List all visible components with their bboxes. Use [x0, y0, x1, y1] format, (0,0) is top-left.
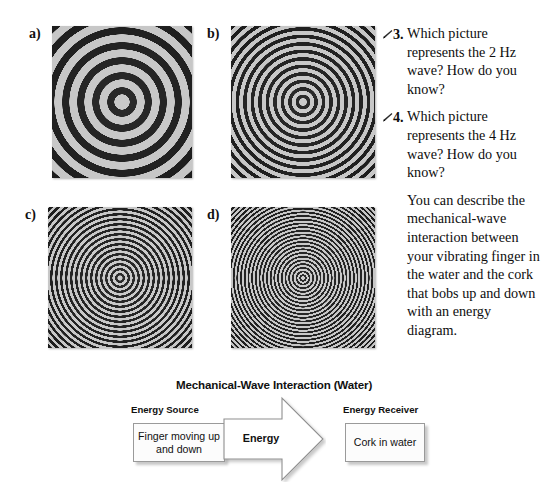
- question-marker-4: 4.: [382, 108, 406, 128]
- ripple-fade-overlay: [231, 207, 375, 348]
- energy-source-box: Finger moving up and down: [133, 423, 225, 462]
- panel-label-b: b): [207, 27, 219, 41]
- concentric-rings-d: [231, 207, 375, 348]
- diagram-title: Mechanical-Wave Interaction (Water): [0, 378, 548, 391]
- energy-source-caption: Energy Source: [131, 404, 199, 415]
- question-item-4: 4. Which picture represents the 4 Hz wav…: [382, 107, 544, 181]
- ripple-panel-d: [231, 207, 375, 348]
- ripple-fade-overlay: [48, 207, 192, 348]
- ripple-panel-b: [231, 26, 375, 178]
- energy-arrow: Energy: [222, 396, 326, 482]
- ripple-panel-a: [52, 26, 192, 178]
- question-number-4: 4.: [393, 109, 404, 125]
- panel-label-a: a): [29, 27, 41, 41]
- energy-receiver-caption: Energy Receiver: [343, 404, 418, 415]
- concentric-rings-b: [231, 26, 375, 178]
- question-column: 3. Which picture represents the 2 Hz wav…: [382, 24, 544, 340]
- question-item-3: 3. Which picture represents the 2 Hz wav…: [382, 24, 544, 98]
- question-marker-3: 3.: [382, 25, 406, 45]
- lesson-paragraph: You can describe the mechanical-wave int…: [382, 191, 544, 340]
- pencil-icon: [382, 109, 393, 128]
- question-number-3: 3.: [393, 26, 404, 42]
- concentric-rings-c: [48, 207, 192, 348]
- pencil-icon: [382, 26, 393, 45]
- question-text-4: Which picture represents the 4 Hz wave? …: [407, 108, 517, 180]
- concentric-rings-a: [52, 26, 192, 178]
- arrow-right-icon: [222, 396, 326, 482]
- energy-receiver-box: Cork in water: [345, 423, 425, 462]
- panel-label-d: d): [207, 208, 219, 222]
- ripple-panel-c: [48, 207, 192, 348]
- panel-label-c: c): [25, 208, 36, 222]
- question-text-3: Which picture represents the 2 Hz wave? …: [407, 25, 517, 97]
- ripple-fade-overlay: [52, 26, 192, 178]
- ripple-fade-overlay: [231, 26, 375, 178]
